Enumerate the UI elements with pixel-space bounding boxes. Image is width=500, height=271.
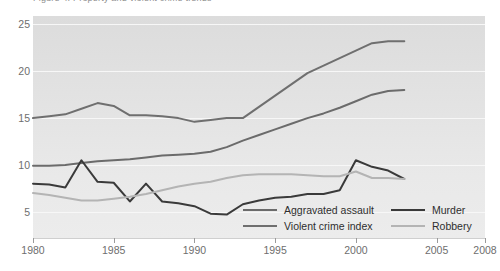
series-line-aggravated-assault bbox=[33, 90, 404, 166]
chart-legend: Aggravated assault Violent crime index M… bbox=[243, 203, 491, 235]
x-axis-line bbox=[33, 238, 485, 239]
x-axis-tick-1995: 1995 bbox=[263, 245, 286, 256]
x-axis-tick-1990: 1990 bbox=[183, 245, 206, 256]
legend-item-murder: Murder bbox=[391, 203, 465, 217]
series-line-robbery bbox=[33, 171, 404, 200]
legend-label-murder: Murder bbox=[432, 205, 465, 216]
y-axis-tick-25: 25 bbox=[4, 19, 30, 29]
chart-title-clipped: Figure 4. Property and violent crime tre… bbox=[33, 0, 333, 3]
y-axis-tick-10: 10 bbox=[4, 160, 30, 170]
y-axis-tick-20: 20 bbox=[4, 66, 30, 76]
x-axis-tick-2000: 2000 bbox=[344, 245, 367, 256]
x-axis-tickmark-2008 bbox=[485, 238, 486, 243]
x-axis-tick-1985: 1985 bbox=[102, 245, 125, 256]
x-axis-tick-2005: 2005 bbox=[425, 245, 448, 256]
legend-label-violent-crime-index: Violent crime index bbox=[284, 221, 373, 232]
legend-swatch-murder bbox=[391, 209, 425, 211]
legend-swatch-robbery bbox=[391, 225, 425, 227]
x-axis-tickmark-1985 bbox=[114, 238, 115, 243]
x-axis-tickmark-1995 bbox=[275, 238, 276, 243]
legend-item-robbery: Robbery bbox=[391, 219, 472, 233]
legend-item-violent-crime-index: Violent crime index bbox=[243, 219, 373, 233]
legend-label-aggravated-assault: Aggravated assault bbox=[284, 205, 374, 216]
y-axis-tick-5: 5 bbox=[4, 207, 30, 217]
legend-swatch-violent-crime-index bbox=[243, 225, 277, 227]
x-axis-tick-2008: 2008 bbox=[473, 245, 496, 256]
legend-swatch-aggravated-assault bbox=[243, 209, 277, 211]
series-line-violent-crime-index bbox=[33, 41, 404, 122]
y-axis-tick-15: 15 bbox=[4, 113, 30, 123]
x-axis-tickmark-1980 bbox=[33, 238, 34, 243]
crime-trends-chart: Figure 4. Property and violent crime tre… bbox=[0, 0, 500, 271]
legend-item-aggravated-assault: Aggravated assault bbox=[243, 203, 374, 217]
x-axis-tick-1980: 1980 bbox=[21, 245, 44, 256]
y-axis-labels: 510152025 bbox=[0, 0, 30, 271]
legend-label-robbery: Robbery bbox=[432, 221, 472, 232]
x-axis-tickmark-2005 bbox=[437, 238, 438, 243]
x-axis-tickmark-1990 bbox=[194, 238, 195, 243]
x-axis-tickmark-2000 bbox=[356, 238, 357, 243]
